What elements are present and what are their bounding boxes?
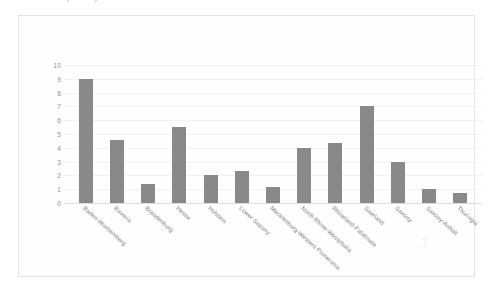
x-label-slot: Bavaria bbox=[101, 204, 132, 274]
bar-slot bbox=[132, 65, 163, 203]
y-tick-label: 0 bbox=[57, 200, 61, 207]
x-label-slot: Saxony-Anhalt bbox=[414, 204, 445, 274]
bar[interactable] bbox=[172, 127, 186, 203]
bar-slot bbox=[382, 65, 413, 203]
bar-slot bbox=[351, 65, 382, 203]
x-label-slot: Rhineland-Palatinate bbox=[320, 204, 351, 274]
x-label-slot: Thuringia bbox=[445, 204, 476, 274]
x-tick-label: Thuringia bbox=[456, 205, 479, 227]
x-label-slot: Saarland bbox=[351, 204, 382, 274]
bar[interactable] bbox=[204, 175, 218, 203]
top-caption: Number of companies by federal state bbox=[18, 0, 458, 3]
x-tick-label: Hesse bbox=[175, 205, 192, 221]
y-tick-label: 3 bbox=[57, 158, 61, 165]
bar[interactable] bbox=[79, 79, 93, 203]
bar[interactable] bbox=[422, 189, 436, 203]
x-tick-label: Bavaria bbox=[113, 205, 133, 224]
bar[interactable] bbox=[328, 143, 342, 203]
y-tick-label: 7 bbox=[57, 103, 61, 110]
plot-area bbox=[64, 65, 482, 203]
bar-slot bbox=[257, 65, 288, 203]
bar[interactable] bbox=[391, 162, 405, 203]
bar[interactable] bbox=[235, 171, 249, 203]
x-label-slot: North Rhine-Westphalia bbox=[289, 204, 320, 274]
bar-slot bbox=[101, 65, 132, 203]
x-tick-label: Saxony bbox=[394, 205, 413, 223]
bar-slot bbox=[320, 65, 351, 203]
bar-slot bbox=[164, 65, 195, 203]
x-label-slot: Brandenburg bbox=[132, 204, 163, 274]
y-tick-label: 4 bbox=[57, 144, 61, 151]
bar[interactable] bbox=[141, 184, 155, 203]
x-axis-category-labels: Baden-WurttembergBavariaBrandenburgHesse… bbox=[64, 204, 482, 274]
y-tick-label: 9 bbox=[57, 75, 61, 82]
bar[interactable] bbox=[110, 140, 124, 203]
y-tick-label: 6 bbox=[57, 117, 61, 124]
bar-slot bbox=[195, 65, 226, 203]
chart-frame: 012345678910 Baden-WurttembergBavariaBra… bbox=[18, 15, 475, 277]
bar[interactable] bbox=[453, 193, 467, 203]
bar-slot bbox=[289, 65, 320, 203]
y-axis-tick-labels: 012345678910 bbox=[37, 57, 61, 211]
bar-slot bbox=[70, 65, 101, 203]
bar-slot bbox=[414, 65, 445, 203]
bar[interactable] bbox=[297, 148, 311, 203]
y-tick-label: 2 bbox=[57, 172, 61, 179]
bar[interactable] bbox=[360, 106, 374, 203]
x-label-slot: Hesse bbox=[164, 204, 195, 274]
x-label-slot: Mecklenburg-Western Pomerania bbox=[257, 204, 288, 274]
x-label-slot: Lower Saxony bbox=[226, 204, 257, 274]
bar[interactable] bbox=[266, 187, 280, 203]
x-label-slot: Holstein bbox=[195, 204, 226, 274]
y-tick-label: 10 bbox=[53, 62, 61, 69]
x-tick-label: Holstein bbox=[207, 205, 228, 225]
bar-slot bbox=[445, 65, 476, 203]
y-tick-label: 1 bbox=[57, 186, 61, 193]
bar-slot bbox=[226, 65, 257, 203]
x-label-slot: Baden-Wurttemberg bbox=[70, 204, 101, 274]
watermark-glyph: ℐ bbox=[421, 234, 428, 252]
x-label-slot: Saxony bbox=[382, 204, 413, 274]
y-tick-label: 8 bbox=[57, 89, 61, 96]
bar-series bbox=[64, 65, 482, 203]
y-tick-label: 5 bbox=[57, 131, 61, 138]
